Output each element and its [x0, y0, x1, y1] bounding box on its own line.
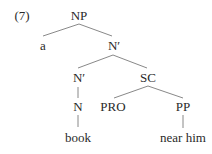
node-pp: PP — [176, 100, 190, 114]
node-sc: SC — [140, 71, 156, 85]
edge-np-nbar — [79, 24, 112, 36]
edge-sc-pp — [148, 86, 183, 98]
node-a: a — [40, 39, 46, 53]
node-pro: PRO — [100, 100, 125, 114]
edge-nbar-nbar — [78, 55, 113, 68]
edge-np-a — [43, 24, 79, 36]
node-np: NP — [71, 9, 88, 23]
syntax-tree: (7) NP a N′ N′ SC N PRO PP book near him — [0, 0, 212, 154]
leaf-near-him: near him — [160, 131, 206, 145]
node-nbar-top: N′ — [108, 39, 120, 53]
edge-sc-pro — [114, 86, 148, 98]
edge-nbar-sc — [113, 55, 147, 68]
node-n: N — [73, 100, 82, 114]
leaf-book: book — [65, 131, 91, 145]
example-number: (7) — [14, 9, 29, 23]
node-nbar-low: N′ — [73, 71, 85, 85]
